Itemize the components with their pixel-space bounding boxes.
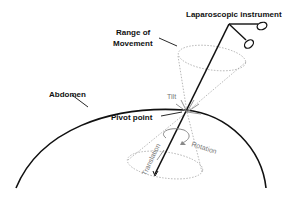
tilt-label: Tilt (167, 93, 176, 100)
laparoscopy-diagram: Laparoscopic instrument Range of Movemen… (0, 0, 306, 201)
instrument-label: Laparoscopic instrument (186, 10, 282, 19)
range-label-1: Range of (116, 28, 151, 37)
range-label-2: Movement (113, 39, 153, 48)
upper-cone (177, 41, 248, 112)
pivot-label: Pivot point (111, 113, 153, 122)
lower-cone (126, 112, 205, 183)
diagram-svg: Laparoscopic instrument Range of Movemen… (0, 0, 306, 201)
leader-arrows (72, 38, 182, 116)
rotation-label: Rotation (191, 140, 218, 155)
abdomen-label: Abdomen (49, 90, 86, 99)
